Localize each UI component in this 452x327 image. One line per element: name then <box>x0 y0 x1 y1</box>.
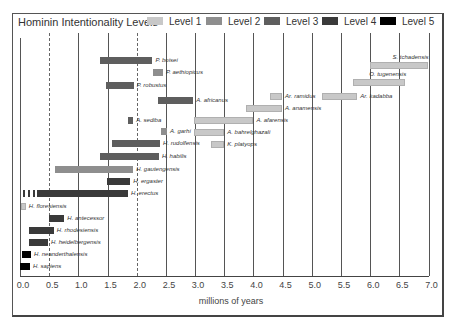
gridline <box>399 33 400 276</box>
range-bar <box>107 178 130 185</box>
legend-swatch-level-1 <box>147 17 163 25</box>
range-bar <box>55 166 133 173</box>
x-tick-label: 0.0 <box>17 280 30 290</box>
range-bar <box>100 153 159 160</box>
species-label: H. gautengensis <box>136 166 179 172</box>
range-bar <box>22 251 31 258</box>
species-label: H. sapiens <box>33 263 61 269</box>
dashed-extension <box>28 190 30 197</box>
gridline <box>49 33 50 276</box>
x-axis-label: millions of years <box>0 296 452 306</box>
species-label: O. tugenensis <box>369 71 406 77</box>
range-bar <box>161 128 167 135</box>
species-label: H. antecessor <box>67 215 104 221</box>
x-tick-label: 1.5 <box>104 280 117 290</box>
x-axis-line <box>20 276 429 277</box>
species-label: P. robustus <box>137 82 167 88</box>
dashed-extension <box>33 190 35 197</box>
x-tick-label: 2.5 <box>163 280 176 290</box>
species-label: Ar. kadabba <box>360 93 392 99</box>
species-label: S. tchadensis <box>393 54 429 60</box>
range-bar <box>29 239 48 246</box>
species-label: P. aethiopicus <box>166 69 203 75</box>
range-bar <box>20 263 30 270</box>
range-bar <box>112 140 160 147</box>
x-tick-label: 5.5 <box>338 280 351 290</box>
gridline <box>224 33 225 276</box>
species-label: H. erectus <box>131 190 158 196</box>
x-tick-label: 6.0 <box>367 280 380 290</box>
species-label: H. floresiensis <box>29 203 67 209</box>
gridline <box>370 33 371 276</box>
range-bar <box>211 141 224 148</box>
range-bar <box>370 62 428 69</box>
range-bar <box>128 117 133 124</box>
range-bar <box>153 69 163 76</box>
range-bar <box>194 117 254 124</box>
legend-label-level-5: Level 5 <box>402 16 434 26</box>
gridline <box>20 38 21 276</box>
range-bar <box>29 227 54 234</box>
x-tick-label: 4.5 <box>279 280 292 290</box>
species-label: H. ergaster <box>133 178 163 184</box>
species-label: A. afarensis <box>256 117 288 123</box>
range-bar <box>37 190 128 197</box>
species-label: A. anamensis <box>285 105 321 111</box>
species-label: H. rudolfensis <box>163 140 200 146</box>
x-tick-label: 0.5 <box>46 280 59 290</box>
species-label: P. boisei <box>155 57 177 63</box>
chart-title: Hominin Intentionality Levels <box>18 16 158 28</box>
species-label: H. heidelbergensis <box>51 239 101 245</box>
range-bar <box>21 203 26 210</box>
x-tick-label: 2.0 <box>133 280 146 290</box>
range-bar <box>270 93 282 100</box>
chart-frame <box>12 13 444 317</box>
range-bar <box>322 93 357 100</box>
x-tick-label: 7.0 <box>425 280 438 290</box>
species-label: Ar. ramidus <box>285 93 315 99</box>
species-label: H. habilis <box>162 153 187 159</box>
species-label: A. garhi <box>170 128 191 134</box>
legend-label-level-1: Level 1 <box>169 16 201 26</box>
legend-swatch-level-3 <box>264 17 280 25</box>
species-label: H. neanderthalensis <box>34 251 87 257</box>
range-bar <box>106 82 134 89</box>
x-tick-label: 5.0 <box>309 280 322 290</box>
x-tick-label: 4.0 <box>250 280 263 290</box>
species-label: H. rhodesiensis <box>57 227 98 233</box>
legend-swatch-level-5 <box>380 17 396 25</box>
species-label: A. bahrelghazali <box>227 129 270 135</box>
legend-label-level-4: Level 4 <box>344 16 376 26</box>
x-tick-label: 1.0 <box>75 280 88 290</box>
species-label: K. platyops <box>227 141 257 147</box>
gridline <box>253 33 254 276</box>
legend-label-level-3: Level 3 <box>286 16 318 26</box>
dashed-extension <box>23 190 25 197</box>
gridline <box>312 33 313 276</box>
x-tick-label: 3.0 <box>192 280 205 290</box>
range-bar <box>100 57 153 64</box>
x-tick-label: 6.5 <box>396 280 409 290</box>
range-bar <box>158 97 193 104</box>
range-bar <box>246 105 282 112</box>
range-bar <box>353 79 406 86</box>
range-bar <box>49 215 64 222</box>
gridline <box>283 33 284 276</box>
species-label: A. sediba <box>136 117 161 123</box>
legend-swatch-level-2 <box>206 17 222 25</box>
x-tick-label: 3.5 <box>221 280 234 290</box>
gridline <box>429 33 430 276</box>
legend-label-level-2: Level 2 <box>228 16 260 26</box>
species-label: A. africanus <box>196 97 228 103</box>
legend-swatch-level-4 <box>322 17 338 25</box>
gridline <box>341 33 342 276</box>
range-bar <box>194 129 224 136</box>
